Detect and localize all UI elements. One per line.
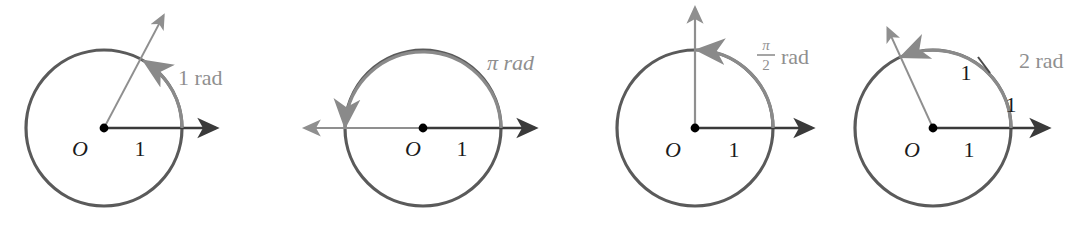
- angle-label-denominator: 2: [762, 57, 770, 73]
- angle-label-suffix: rad: [781, 44, 809, 69]
- arc-segment-label-lower: 1: [1006, 92, 1017, 117]
- radius-label: 1: [964, 137, 975, 162]
- center-dot: [691, 124, 700, 133]
- panel-pi-over-2-rad: O 1 π 2 rad: [546, 0, 819, 225]
- arc-segment-label-upper: 1: [961, 60, 972, 85]
- panel-pi-over-2-rad-canvas: O 1 π 2 rad: [546, 0, 819, 225]
- center-dot: [100, 124, 109, 133]
- arc-2-rad: [903, 50, 1011, 128]
- center-label: O: [72, 136, 88, 161]
- panel-pi-rad: O 1 π rad: [273, 0, 546, 225]
- radian-measure-figure: O 1 1 rad O: [0, 0, 1090, 225]
- angle-label: π rad: [487, 50, 535, 75]
- panel-1-rad: O 1 1 rad: [0, 0, 273, 225]
- center-dot: [929, 124, 938, 133]
- radius-label: 1: [729, 137, 740, 162]
- panel-1-rad-canvas: O 1 1 rad: [0, 0, 273, 225]
- center-label: O: [904, 137, 920, 162]
- terminal-side-ray: [888, 29, 933, 129]
- center-dot: [419, 124, 428, 133]
- angle-label: 2 rad: [1019, 48, 1064, 73]
- center-label: O: [405, 136, 421, 161]
- center-label: O: [665, 137, 681, 162]
- arc-1-rad: [146, 62, 182, 128]
- radius-label: 1: [457, 136, 468, 161]
- radius-label: 1: [135, 136, 146, 161]
- angle-label-numerator: π: [762, 37, 770, 53]
- terminal-side-ray: [104, 16, 164, 129]
- panel-2-rad: O 1 1 1 2 rad: [819, 0, 1090, 225]
- angle-label: 1 rad: [178, 65, 223, 90]
- panel-pi-rad-canvas: O 1 π rad: [273, 0, 546, 225]
- panel-2-rad-canvas: O 1 1 1 2 rad: [819, 0, 1090, 225]
- arc-pi-rad: [345, 52, 501, 128]
